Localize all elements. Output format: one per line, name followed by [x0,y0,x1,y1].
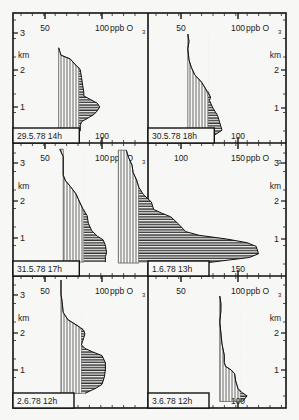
y-tick-label: 2 [274,328,279,338]
y-tick-label: 1 [20,233,25,243]
y-axis-unit-label: km [270,50,281,60]
x-tick-label: 100 [95,153,109,163]
unit-label: ppb O [246,23,270,33]
x-tick-label: 50 [176,286,186,296]
x-tick-label-bottom: 150 [231,264,245,274]
x-tick-label: 50 [40,153,50,163]
x-tick-label: 100 [95,23,109,33]
profile-panel-6: 50100ppb O310012km3.6.78 12h [148,276,286,408]
excess-ozone-area [81,280,105,393]
y-tick-label: 2 [274,65,279,75]
y-axis-unit-label: km [18,50,29,60]
background-ozone-area [61,280,82,393]
x-tick-label: 50 [40,23,50,33]
excess-ozone-area [84,149,107,262]
y-tick-label: 2 [20,65,25,75]
x-tick-label: 100 [231,23,245,33]
profile-panel-5: 50100ppb O3123km2.6.78 12h [13,276,146,408]
excess-ozone-area [79,48,100,131]
unit-subscript: 3 [142,292,146,298]
y-tick-label: 1 [20,365,25,375]
date-label: 2.6.78 12h [17,396,57,406]
x-tick-label: 100 [174,153,188,163]
x-tick-label-bottom: 100 [95,131,109,141]
date-label: 29.5.78 14h [17,131,62,141]
y-tick-label: 3 [20,158,25,168]
unit-label: ppb O [110,286,134,296]
y-tick-label: 1 [20,102,25,112]
background-ozone-area [59,48,80,131]
x-tick-label: 150 [231,153,245,163]
y-tick-label: 3 [274,158,279,168]
profile-panel-2: 50100ppb O310012km30.5.78 18h [148,13,286,143]
x-tick-label: 50 [40,286,50,296]
date-label: 1.6.78 13h [152,264,192,274]
unit-label: ppb O [246,153,270,163]
background-ozone-area [188,34,209,139]
y-tick-label: 1 [274,234,279,244]
y-tick-label: 2 [20,328,25,338]
excess-ozone-area [139,150,259,263]
x-tick-label: 100 [95,286,109,296]
date-label: 30.5.78 18h [152,131,197,141]
ozone-profile-figure: 50100ppb O3100123km29.5.78 14h50100ppb O… [0,0,299,420]
unit-subscript: 3 [142,29,146,35]
y-tick-label: 2 [274,196,279,206]
background-ozone-area [118,150,139,263]
x-tick-label: 50 [176,23,186,33]
date-label: 31.5.78 17h [17,264,62,274]
y-tick-label: 3 [20,28,25,38]
profile-panel-1: 50100ppb O3100123km29.5.78 14h [13,13,146,143]
date-label: 3.6.78 12h [152,396,192,406]
unit-label: ppb O [246,286,270,296]
y-tick-label: 1 [274,103,279,113]
y-tick-label: 1 [274,365,279,375]
y-tick-label: 3 [20,290,25,300]
unit-subscript: 3 [278,29,282,35]
unit-subscript: 3 [142,159,146,165]
x-tick-label-bottom: 100 [231,131,245,141]
y-axis-unit-label: km [270,313,281,323]
x-tick-label: 100 [231,286,245,296]
y-axis-unit-label: km [270,181,281,191]
unit-subscript: 3 [278,292,282,298]
unit-label: ppb O [110,23,134,33]
x-tick-label-bottom: 100 [231,396,245,406]
excess-ozone-area [240,296,247,401]
y-axis-unit-label: km [18,181,29,191]
y-axis-unit-label: km [18,313,29,323]
y-tick-label: 2 [20,196,25,206]
